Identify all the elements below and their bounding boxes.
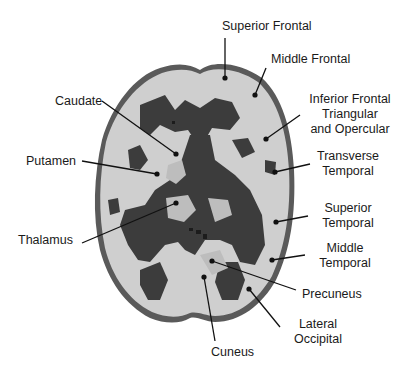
label-transverse-temporal-line1: Transverse: [305, 149, 391, 164]
label-transverse-temporal-line2: Temporal: [305, 164, 391, 179]
label-putamen: Putamen: [26, 154, 76, 169]
label-inferior-frontal-line3: and Opercular: [299, 122, 401, 137]
label-transverse-temporal: Transverse Temporal: [305, 149, 391, 179]
label-lateral-occipital-line2: Occipital: [282, 332, 354, 347]
label-inferior-frontal: Inferior Frontal Triangular and Opercula…: [299, 92, 401, 137]
label-precuneus: Precuneus: [302, 287, 362, 302]
label-middle-frontal: Middle Frontal: [271, 52, 350, 67]
label-inferior-frontal-line1: Inferior Frontal: [299, 92, 401, 107]
label-middle-temporal-line1: Middle: [305, 241, 385, 256]
label-inferior-frontal-line2: Triangular: [299, 107, 401, 122]
label-superior-temporal: Superior Temporal: [308, 201, 388, 231]
label-superior-temporal-line1: Superior: [308, 201, 388, 216]
label-thalamus: Thalamus: [18, 233, 73, 248]
label-cuneus: Cuneus: [211, 345, 254, 360]
label-superior-frontal: Superior Frontal: [222, 19, 312, 34]
label-lateral-occipital-line1: Lateral: [282, 317, 354, 332]
label-lateral-occipital: Lateral Occipital: [282, 317, 354, 347]
label-middle-temporal: Middle Temporal: [305, 241, 385, 271]
label-caudate: Caudate: [55, 94, 102, 109]
label-middle-temporal-line2: Temporal: [305, 256, 385, 271]
label-superior-temporal-line2: Temporal: [308, 216, 388, 231]
